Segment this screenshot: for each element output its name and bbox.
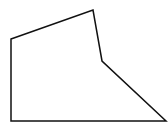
pentagon-shape bbox=[11, 10, 166, 121]
diagram-canvas bbox=[0, 0, 168, 127]
